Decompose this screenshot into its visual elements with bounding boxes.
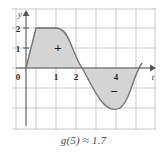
x-tick-label-1: 1	[54, 72, 59, 82]
negative-region-sign: −	[110, 84, 117, 99]
function-graph-svg: 2 1 0 1 2 4 y t + −	[12, 8, 156, 130]
positive-region-sign: +	[54, 40, 61, 55]
origin-label: 0	[16, 72, 21, 82]
y-tick-label-1: 1	[16, 44, 21, 54]
x-axis-label: t	[152, 72, 155, 82]
y-tick-label-2: 2	[16, 24, 21, 34]
x-tick-label-4: 4	[114, 72, 119, 82]
figure-container: 2 1 0 1 2 4 y t + − g(5) ≈ 1.7	[0, 0, 167, 159]
plot-area: 2 1 0 1 2 4 y t + −	[12, 8, 156, 130]
y-axis-arrow	[23, 10, 30, 16]
figure-caption: g(5) ≈ 1.7	[0, 134, 167, 146]
y-axis-label: y	[17, 9, 22, 19]
x-tick-label-2: 2	[74, 72, 79, 82]
